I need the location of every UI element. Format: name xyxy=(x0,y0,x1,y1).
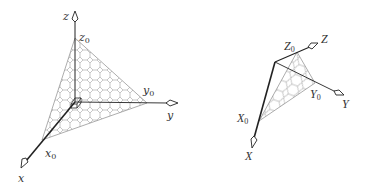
right-X-label: X xyxy=(244,149,253,163)
y-arrowhead-icon xyxy=(166,100,178,106)
left-z0-label: z0 xyxy=(78,31,90,45)
left-x0-label: x0 xyxy=(45,147,56,161)
left-y0-label: y0 xyxy=(142,84,154,98)
x-arrowhead-icon xyxy=(21,158,28,168)
left-z-label: z xyxy=(62,10,69,23)
right-Y0-label: Y0 xyxy=(310,87,321,102)
right-Y-label: Y xyxy=(342,97,350,111)
Y-arrowhead-icon xyxy=(334,90,344,95)
left-y-label: y xyxy=(166,109,174,122)
right-Z-label: Z xyxy=(321,32,328,46)
right-diagram: Z Y X Z0 Y0 X0 xyxy=(236,32,350,163)
Z-arrowhead-icon xyxy=(308,43,318,49)
z-arrowhead-icon xyxy=(72,11,78,22)
right-X0-label: X0 xyxy=(236,111,248,126)
X-arrowhead-icon xyxy=(251,136,257,148)
diagram-canvas: z y x z0 y0 x0 Z Y X Z0 Y0 X0 xyxy=(0,0,367,186)
right-Z0-label: Z0 xyxy=(284,39,295,54)
left-x-label: x xyxy=(18,172,25,185)
left-diagram: z y x z0 y0 x0 xyxy=(18,10,178,185)
